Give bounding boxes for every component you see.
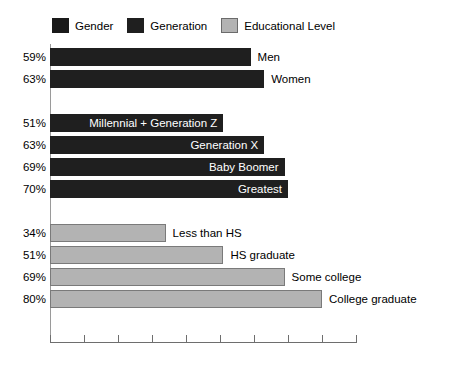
- bar-less-than-hs[interactable]: [50, 224, 166, 242]
- x-axis-line: [50, 342, 356, 343]
- x-tick-0: [50, 335, 51, 343]
- bar-value-label: 80%: [14, 290, 46, 308]
- bar-value-label: 63%: [14, 136, 46, 154]
- legend-entry-gender[interactable]: Gender: [52, 18, 113, 33]
- bar-greatest[interactable]: Greatest: [50, 180, 288, 198]
- bar-category-label: Millennial + Generation Z: [89, 114, 217, 132]
- bar-some-college[interactable]: [50, 268, 285, 286]
- x-tick-6: [254, 335, 255, 343]
- bar-category-label: Greatest: [238, 180, 282, 198]
- x-tick-4: [186, 335, 187, 343]
- bar-value-label: 69%: [14, 268, 46, 286]
- bar-row: 69%Baby Boomer: [0, 158, 466, 176]
- bar-row: HS graduate51%: [0, 246, 466, 264]
- plot-area: Men59%Women63%51%Millennial + Generation…: [0, 44, 466, 344]
- x-tick-2: [118, 335, 119, 343]
- x-tick-8: [322, 335, 323, 343]
- x-tick-5: [220, 335, 221, 343]
- bar-category-label: HS graduate: [230, 246, 295, 264]
- legend-label-gender: Gender: [75, 20, 113, 32]
- bar-row: Less than HS34%: [0, 224, 466, 242]
- bar-value-label: 69%: [14, 158, 46, 176]
- bar-college-graduate[interactable]: [50, 290, 322, 308]
- x-tick-1: [84, 335, 85, 343]
- bar-category-label: College graduate: [329, 290, 417, 308]
- bar-row: Men59%: [0, 48, 466, 66]
- bar-value-label: 51%: [14, 114, 46, 132]
- bar-baby-boomer[interactable]: Baby Boomer: [50, 158, 285, 176]
- bar-row: Women63%: [0, 70, 466, 88]
- bar-row: 51%Millennial + Generation Z: [0, 114, 466, 132]
- bar-category-label: Women: [271, 70, 310, 88]
- bar-chart: GenderGenerationEducational Level Men59%…: [0, 0, 466, 366]
- legend-label-generation: Generation: [150, 20, 207, 32]
- legend-swatch-gender: [52, 18, 69, 33]
- bar-value-label: 63%: [14, 70, 46, 88]
- bar-category-label: Some college: [292, 268, 362, 286]
- bar-row: 63%Generation X: [0, 136, 466, 154]
- bar-category-label: Generation X: [190, 136, 258, 154]
- x-tick-3: [152, 335, 153, 343]
- bar-category-label: Baby Boomer: [209, 158, 279, 176]
- legend-entry-generation[interactable]: Generation: [127, 18, 207, 33]
- legend-swatch-generation: [127, 18, 144, 33]
- bar-value-label: 34%: [14, 224, 46, 242]
- legend-entry-edu[interactable]: Educational Level: [221, 18, 335, 33]
- legend-label-edu: Educational Level: [244, 20, 335, 32]
- bar-row: Some college69%: [0, 268, 466, 286]
- x-tick-7: [288, 335, 289, 343]
- bar-value-label: 70%: [14, 180, 46, 198]
- bar-millennial-generation-z[interactable]: Millennial + Generation Z: [50, 114, 223, 132]
- bar-women[interactable]: [50, 70, 264, 88]
- bar-row: 70%Greatest: [0, 180, 466, 198]
- bar-hs-graduate[interactable]: [50, 246, 223, 264]
- chart-legend: GenderGenerationEducational Level: [52, 18, 349, 33]
- bar-generation-x[interactable]: Generation X: [50, 136, 264, 154]
- bar-row: College graduate80%: [0, 290, 466, 308]
- bar-category-label: Men: [258, 48, 280, 66]
- x-tick-9: [356, 335, 357, 343]
- bar-category-label: Less than HS: [173, 224, 242, 242]
- bar-value-label: 59%: [14, 48, 46, 66]
- legend-swatch-edu: [221, 18, 238, 33]
- bar-men[interactable]: [50, 48, 251, 66]
- bar-value-label: 51%: [14, 246, 46, 264]
